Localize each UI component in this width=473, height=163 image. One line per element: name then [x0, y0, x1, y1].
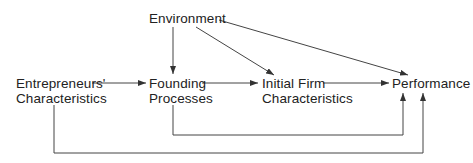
node-founding-line2: Processes [149, 91, 213, 106]
edge-environment-initial-firm [196, 27, 274, 75]
node-performance: Performance [392, 76, 470, 91]
edge-entrepreneurs-performance [54, 93, 423, 153]
edge-environment-performance [219, 20, 408, 75]
node-initial-firm-line1: Initial Firm [262, 76, 325, 91]
node-initial-firm-line2: Characteristics [262, 91, 353, 106]
node-entrepreneurs-line1: Entrepreneurs' [16, 76, 106, 91]
node-environment: Environment [149, 11, 226, 26]
node-entrepreneurs-line2: Characteristics [16, 91, 107, 106]
node-founding-line1: Founding [149, 76, 206, 91]
